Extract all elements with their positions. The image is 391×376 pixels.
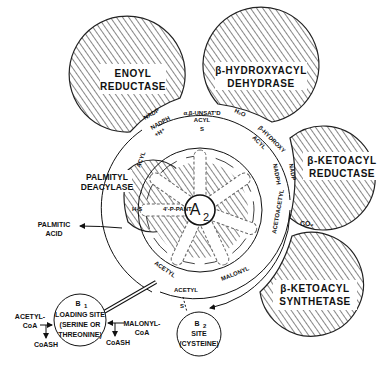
ketoacyl-reductase-label-2: REDUCTASE	[309, 168, 375, 179]
b2-site: S B 2 SITE (CYSTEINE)	[177, 297, 221, 356]
b1-loading-site: B 1 LOADING SITE (SERINE OR THREONINE)	[54, 282, 156, 346]
core-subscript: 2	[203, 211, 209, 223]
unsat-label-1: α,β-UNSAT'D	[184, 110, 222, 116]
malonyl-label: MALONYL	[220, 265, 250, 282]
b1-line-2: (SERINE OR	[60, 321, 101, 329]
unsat-label-2: ACYL	[194, 117, 211, 123]
fatty-acid-synthase-diagram: ENOYL REDUCTASE β-HYDROXYACYL DEHYDRASE …	[0, 0, 391, 376]
deacylase-label-2: DEACYLASE	[81, 182, 134, 192]
coash-left: CoASH	[34, 341, 58, 348]
deacylase-label-1: PALMITYL	[86, 172, 128, 182]
coash-right: CoASH	[106, 339, 130, 346]
co2-label: CO₂	[300, 220, 314, 227]
acetyl-coa-2: CoA	[23, 322, 37, 329]
enoyl-label-1: ENOYL	[115, 68, 152, 79]
malonyl-coa-1: MALONYL-	[124, 320, 162, 327]
ketoacyl-synthetase-enzyme: β-KETOACYL SYNTHETASE	[260, 232, 363, 336]
palmitic-label-1: PALMITIC	[38, 221, 71, 228]
b2-title: B	[194, 320, 199, 327]
b2-line-2: (CYSTEINE)	[179, 340, 219, 348]
hs-label: H-S	[132, 206, 142, 212]
dehydrase-label-1: β-HYDROXYACYL	[215, 65, 307, 76]
acetyl-b2-label: ACETYL	[174, 287, 198, 293]
b2-line-1: SITE	[191, 330, 207, 337]
ppant-label: 4'-P-PANT	[163, 206, 192, 212]
enoyl-label-2: REDUCTASE	[100, 81, 166, 92]
acetyl-coa-1: ACETYL-	[15, 313, 46, 320]
b1-title: B	[75, 300, 80, 307]
b1-line-1: LOADING SITE	[55, 311, 105, 318]
palmitic-label-2: ACID	[45, 230, 62, 237]
malonyl-coa-2: CoA	[135, 329, 149, 336]
ketoacyl-reductase-label-1: β-KETOACYL	[307, 155, 376, 166]
hydroxy-label-2: ACYL	[251, 134, 267, 150]
b1-line-3: THREONINE)	[58, 331, 102, 339]
synthetase-label-2: SYNTHETASE	[279, 296, 351, 307]
nadph-right-1: NADPH	[272, 163, 282, 185]
synthetase-label-1: β-KETOACYL	[280, 283, 349, 294]
ketoacyl-reductase-enzyme: β-KETOACYL REDUCTASE	[290, 126, 381, 230]
palmitic-acid-output: PALMITIC ACID	[38, 221, 122, 237]
dehydrase-label-2: DEHYDRASE	[227, 78, 294, 89]
s-unsat: S	[200, 126, 204, 132]
s-b2: S	[180, 303, 184, 309]
acetoacetyl-label: ACETOACETYL	[271, 189, 285, 235]
hydroxyacyl-dehydrase-enzyme: β-HYDROXYACYL DEHYDRASE	[203, 7, 319, 122]
